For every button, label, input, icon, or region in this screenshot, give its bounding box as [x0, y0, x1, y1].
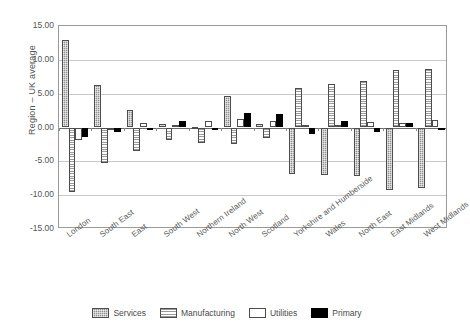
x-tick-mark	[254, 128, 255, 131]
bar-primary-scotland	[276, 114, 283, 128]
bar-utilities-northern-ireland	[205, 121, 212, 128]
bar-manufacturing-south-west	[166, 128, 173, 141]
y-tick-label: 5.00	[12, 89, 54, 97]
legend-item-manufacturing[interactable]: Manufacturing	[160, 308, 235, 318]
legend-swatch-icon	[92, 308, 109, 318]
bar-manufacturing-yorkshire-and-humberside	[295, 88, 302, 127]
bar-utilities-south-west	[172, 125, 179, 128]
legend-item-primary[interactable]: Primary	[311, 308, 361, 318]
bar-group	[59, 26, 91, 227]
x-tick-mark	[221, 128, 222, 131]
bar-utilities-yorkshire-and-humberside	[302, 125, 309, 128]
bar-services-london	[62, 40, 69, 127]
bar-services-north-west	[224, 96, 231, 128]
bar-services-east	[127, 110, 134, 128]
bar-manufacturing-scotland	[263, 128, 270, 139]
bar-utilities-east-midlands	[399, 123, 406, 128]
x-tick-mark	[286, 128, 287, 131]
legend-label: Manufacturing	[181, 308, 235, 318]
x-tick-mark	[318, 128, 319, 131]
bar-group	[286, 26, 318, 227]
bar-primary-london	[82, 128, 89, 137]
bar-services-south-west	[159, 124, 166, 127]
legend-item-utilities[interactable]: Utilities	[249, 308, 297, 318]
y-tick-label: -10.00	[12, 190, 54, 198]
x-tick-mark	[351, 128, 352, 131]
legend-label: Services	[113, 308, 146, 318]
bar-services-wales	[321, 128, 328, 175]
bar-primary-west-midlands	[438, 128, 445, 130]
legend-swatch-icon	[311, 308, 328, 318]
bar-manufacturing-north-east	[360, 81, 367, 128]
bar-manufacturing-northern-ireland	[198, 128, 205, 144]
legend-label: Primary	[332, 308, 361, 318]
x-tick-mark	[59, 128, 60, 131]
y-tick-label: 0.00	[12, 123, 54, 131]
x-axis-tick-labels: LondonSouth EastEastSouth WestNorthern I…	[0, 228, 454, 308]
y-tick-label: 15.00	[12, 21, 54, 29]
bar-services-yorkshire-and-humberside	[289, 128, 296, 174]
bar-manufacturing-east-midlands	[393, 70, 400, 128]
y-tick-label: -5.00	[12, 156, 54, 164]
bar-utilities-north-west	[237, 119, 244, 128]
x-tick-mark	[416, 128, 417, 131]
bar-primary-east-midlands	[406, 123, 413, 128]
bar-utilities-london	[75, 128, 82, 140]
bar-utilities-north-east	[367, 122, 374, 127]
bar-group	[189, 26, 221, 227]
bar-utilities-scotland	[270, 121, 277, 127]
bar-manufacturing-london	[69, 128, 76, 192]
chart-legend: ServicesManufacturingUtilitiesPrimary	[0, 308, 454, 318]
bar-primary-east	[147, 128, 154, 130]
bar-manufacturing-south-east	[101, 128, 108, 163]
bar-services-west-midlands	[418, 128, 425, 189]
bar-manufacturing-wales	[328, 84, 335, 128]
bar-utilities-east	[140, 123, 147, 127]
bar-primary-south-west	[179, 121, 186, 128]
bar-group	[416, 26, 448, 227]
legend-swatch-icon	[160, 308, 177, 318]
y-tick-label: 10.00	[12, 55, 54, 63]
bar-primary-north-west	[244, 113, 251, 128]
bar-manufacturing-north-west	[231, 128, 238, 144]
bar-primary-northern-ireland	[212, 128, 219, 130]
bar-services-scotland	[256, 124, 263, 127]
bar-group	[254, 26, 286, 227]
x-tick-mark	[189, 128, 190, 131]
bar-primary-south-east	[114, 128, 121, 132]
bar-group	[221, 26, 253, 227]
bar-group	[91, 26, 123, 227]
bar-primary-yorkshire-and-humberside	[309, 128, 316, 134]
bar-primary-north-east	[374, 128, 381, 133]
x-tick-mark	[383, 128, 384, 131]
bar-manufacturing-west-midlands	[425, 69, 432, 128]
bar-primary-wales	[341, 121, 348, 127]
bar-group	[124, 26, 156, 227]
bar-services-south-east	[94, 85, 101, 128]
bar-group	[351, 26, 383, 227]
x-tick-mark	[91, 128, 92, 131]
legend-swatch-icon	[249, 308, 266, 318]
bar-services-east-midlands	[386, 128, 393, 190]
bar-group	[156, 26, 188, 227]
bar-services-northern-ireland	[192, 127, 199, 129]
x-tick-mark	[156, 128, 157, 131]
bar-utilities-west-midlands	[432, 120, 439, 127]
bar-utilities-wales	[335, 125, 342, 128]
bar-manufacturing-east	[133, 128, 140, 151]
plot-area	[58, 25, 447, 228]
legend-label: Utilities	[270, 308, 297, 318]
bar-group	[383, 26, 415, 227]
x-tick-mark	[124, 128, 125, 131]
bar-utilities-south-east	[108, 128, 115, 130]
bar-services-north-east	[354, 128, 361, 177]
legend-item-services[interactable]: Services	[92, 308, 146, 318]
